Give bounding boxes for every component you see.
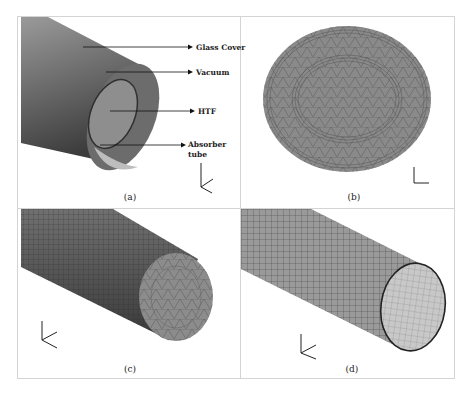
- axis-triad-icon: [42, 321, 57, 348]
- panel-c: (c): [18, 209, 240, 379]
- label-absorber: Absorber: [188, 140, 226, 149]
- cross-section-mesh-illustration: [241, 17, 455, 208]
- label-absorber-tube: tube: [188, 150, 207, 159]
- axis-triad-icon: [201, 163, 213, 193]
- tube-surface-mesh-illustration: [241, 209, 455, 379]
- panel-d: (d): [241, 209, 455, 379]
- label-htf: HTF: [198, 107, 216, 116]
- panel-a: Glass Cover Vacuum HTF Absorber tube (a): [18, 17, 240, 208]
- label-vacuum: Vacuum: [196, 68, 229, 77]
- label-glass-cover: Glass Cover: [196, 43, 245, 52]
- axis-triad-icon: [414, 167, 429, 183]
- htf-volume-mesh-illustration: [18, 209, 240, 379]
- caption-a: (a): [110, 192, 150, 202]
- caption-d: (d): [332, 364, 372, 374]
- caption-b: (b): [334, 192, 374, 202]
- panel-b: (b): [241, 17, 455, 208]
- caption-c: (c): [110, 364, 150, 374]
